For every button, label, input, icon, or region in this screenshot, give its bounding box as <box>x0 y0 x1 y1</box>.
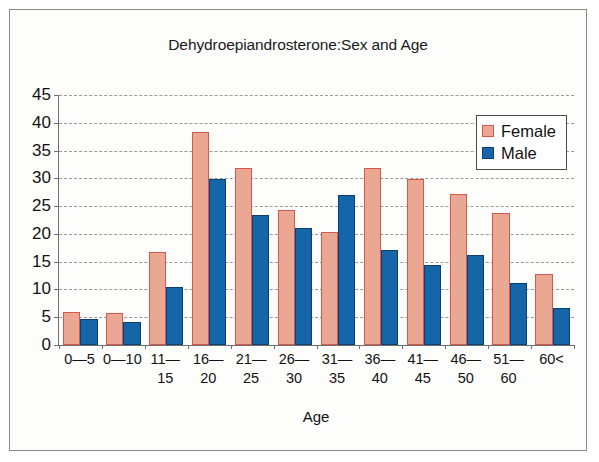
bar-male <box>381 250 398 345</box>
bar-female <box>192 132 209 345</box>
y-axis-tick-label: 40 <box>32 113 51 133</box>
x-axis-tick-mark <box>445 345 446 349</box>
chart-title: Dehydroepiandrosterone:Sex and Age <box>10 36 586 54</box>
bar-female <box>407 179 424 345</box>
bar-male <box>252 215 269 345</box>
bar-group <box>278 95 312 345</box>
legend-label-female: Female <box>501 122 556 141</box>
bar-group <box>235 95 269 345</box>
x-axis-tick-label: 16—20 <box>187 350 230 388</box>
legend-item-male: Male <box>482 142 556 164</box>
x-axis-tick-label: 26—30 <box>273 350 316 388</box>
x-axis-tick-mark <box>274 345 275 349</box>
x-axis-tick-mark <box>317 345 318 349</box>
y-axis-tick-label: 35 <box>32 141 51 161</box>
x-axis-tick-label-line2: 60 <box>487 369 530 388</box>
bar-male <box>338 195 355 345</box>
x-axis-title: Age <box>58 408 574 425</box>
bar-female <box>535 274 552 345</box>
x-axis-tick-label: 41—45 <box>401 350 444 388</box>
x-axis-tick-mark <box>402 345 403 349</box>
x-axis-tick-label-line1: 26— <box>279 351 310 367</box>
bar-male <box>553 308 570 345</box>
x-axis-tick-label-line1: 41— <box>407 351 438 367</box>
bar-male <box>424 265 441 345</box>
x-axis-tick-label-line1: 0—10 <box>103 351 142 367</box>
bar-group <box>106 95 140 345</box>
x-axis-tick-mark <box>145 345 146 349</box>
x-axis-tick-labels: 0—50—1011—1516—2021—2526—3031—3536—4041—… <box>58 350 574 406</box>
bar-male <box>166 287 183 345</box>
x-axis-tick-mark <box>231 345 232 349</box>
x-axis-tick-label-line1: 60< <box>539 351 564 367</box>
x-axis-tick-label-line2: 45 <box>401 369 444 388</box>
x-axis-tick-mark <box>59 345 60 349</box>
x-axis-tick-mark <box>188 345 189 349</box>
x-axis-tick-label: 46—50 <box>444 350 487 388</box>
x-axis-tick-label-line2: 20 <box>187 369 230 388</box>
bar-group <box>321 95 355 345</box>
x-axis-tick-label-line1: 31— <box>322 351 353 367</box>
bar-male <box>123 322 140 345</box>
bar-female <box>278 210 295 345</box>
bar-female <box>63 312 80 345</box>
x-axis-tick-label: 36—40 <box>358 350 401 388</box>
x-axis-tick-label-line2: 50 <box>444 369 487 388</box>
legend-item-female: Female <box>482 120 556 142</box>
x-axis-tick-label: 60< <box>530 350 573 369</box>
bar-group <box>63 95 97 345</box>
y-axis-tick-label: 0 <box>42 335 51 355</box>
x-axis-tick-label: 21—25 <box>230 350 273 388</box>
x-axis-tick-label-line1: 51— <box>493 351 524 367</box>
bar-male <box>467 255 484 345</box>
bar-group <box>149 95 183 345</box>
legend-label-male: Male <box>501 144 537 163</box>
bar-female <box>235 168 252 345</box>
x-axis-tick-label-line1: 46— <box>450 351 481 367</box>
bar-male <box>80 319 97 345</box>
x-axis-tick-label: 0—5 <box>58 350 101 369</box>
bar-female <box>450 194 467 345</box>
legend-swatch-male-icon <box>482 147 494 159</box>
bar-female <box>364 168 381 345</box>
x-axis-tick-label-line1: 21— <box>236 351 267 367</box>
bar-male <box>295 228 312 345</box>
legend-swatch-female-icon <box>482 125 494 137</box>
x-axis-tick-mark <box>102 345 103 349</box>
bar-group <box>407 95 441 345</box>
y-axis-tick-label: 5 <box>42 307 51 327</box>
bar-male <box>209 179 226 345</box>
x-axis-tick-label-line1: 16— <box>193 351 224 367</box>
x-axis-tick-label: 31—35 <box>316 350 359 388</box>
x-axis-tick-label-line2: 35 <box>316 369 359 388</box>
bar-female <box>321 232 338 345</box>
x-axis-tick-label-line1: 0—5 <box>64 351 95 367</box>
bar-group <box>364 95 398 345</box>
x-axis-tick-label-line2: 40 <box>358 369 401 388</box>
y-axis-tick-label: 20 <box>32 224 51 244</box>
y-axis-tick-label: 15 <box>32 252 51 272</box>
y-axis-tick-label: 30 <box>32 168 51 188</box>
chart-legend: Female Male <box>476 115 567 170</box>
x-axis-tick-label-line1: 11— <box>151 351 181 367</box>
x-axis-tick-label-line2: 25 <box>230 369 273 388</box>
y-axis-tick-label: 25 <box>32 196 51 216</box>
bar-female <box>492 213 509 345</box>
bar-female <box>149 252 166 345</box>
bar-male <box>510 283 527 345</box>
x-axis-tick-label-line1: 36— <box>365 351 396 367</box>
x-axis-tick-mark <box>531 345 532 349</box>
x-axis-tick-label: 51—60 <box>487 350 530 388</box>
x-axis-tick-mark <box>574 345 575 349</box>
x-axis-tick-label: 0—10 <box>101 350 144 369</box>
x-axis-tick-mark <box>359 345 360 349</box>
x-axis-tick-label: 11—15 <box>144 350 187 388</box>
y-axis-tick-label: 45 <box>32 85 51 105</box>
x-axis-tick-label-line2: 15 <box>144 369 187 388</box>
x-axis-tick-mark <box>488 345 489 349</box>
bar-female <box>106 313 123 345</box>
chart-figure-frame: Dehydroepiandrosterone:Sex and Age 05101… <box>9 9 587 451</box>
bar-group <box>192 95 226 345</box>
y-axis-tick-label: 10 <box>32 279 51 299</box>
x-axis-tick-label-line2: 30 <box>273 369 316 388</box>
